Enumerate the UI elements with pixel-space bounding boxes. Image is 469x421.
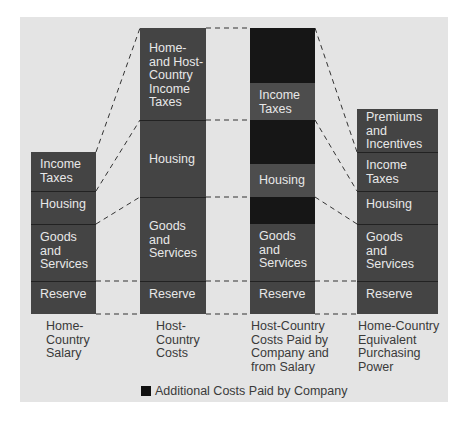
segment-income-taxes: Income Taxes <box>31 152 96 191</box>
segment-goods-and-services: Goods and Services <box>250 224 315 281</box>
segment-goods-and-services: Goods and Services <box>140 197 206 281</box>
segment-housing: Housing <box>250 164 315 197</box>
legend: Additional Costs Paid by Company <box>141 384 347 398</box>
caption-host-country-costs: Host- Country Costs <box>156 320 200 361</box>
segment-reserve: Reserve <box>357 281 438 314</box>
segment-company-paid-housing <box>250 120 315 164</box>
caption-home-country-salary: Home- Country Salary <box>46 320 90 361</box>
column-host-country-costs: Home- and Host- Country Income Taxes Hou… <box>140 28 206 314</box>
segment-income-taxes: Income Taxes <box>250 83 315 120</box>
legend-label: Additional Costs Paid by Company <box>155 384 347 398</box>
legend-swatch-icon <box>141 386 151 396</box>
caption-home-country-equivalent: Home-Country Equivalent Purchasing Power <box>358 320 439 374</box>
segment-company-paid-goods <box>250 197 315 224</box>
column-home-country-salary: Income Taxes Housing Goods and Services … <box>31 152 96 314</box>
segment-housing: Housing <box>357 191 438 224</box>
segment-reserve: Reserve <box>140 281 206 314</box>
segment-housing: Housing <box>140 120 206 197</box>
segment-goods-and-services: Goods and Services <box>31 224 96 281</box>
caption-host-country-costs-paid: Host-Country Costs Paid by Company and f… <box>251 320 329 374</box>
column-home-country-equivalent: Premiums and Incentives Income Taxes Hou… <box>357 109 438 314</box>
segment-company-paid-taxes <box>250 28 315 83</box>
segment-home-and-host-country-income-taxes: Home- and Host- Country Income Taxes <box>140 28 206 120</box>
segment-reserve: Reserve <box>31 281 96 314</box>
segment-housing: Housing <box>31 191 96 224</box>
column-host-country-costs-paid: Income Taxes Housing Goods and Services … <box>250 28 315 314</box>
segment-income-taxes: Income Taxes <box>357 152 438 191</box>
segment-premiums-and-incentives: Premiums and Incentives <box>357 109 438 152</box>
segment-reserve: Reserve <box>250 281 315 314</box>
segment-goods-and-services: Goods and Services <box>357 224 438 281</box>
